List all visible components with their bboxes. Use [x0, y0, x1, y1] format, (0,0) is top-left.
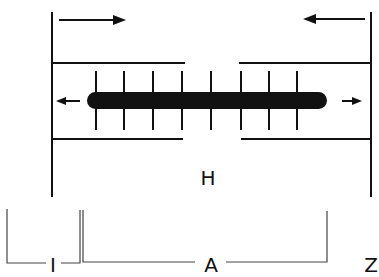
- arrow-left-small-icon: [56, 97, 80, 105]
- sarcomere-diagram: H I A Z: [0, 0, 379, 277]
- arrow-right-icon: [59, 15, 126, 25]
- label-i-band: I: [50, 253, 56, 277]
- arrow-left-icon: [303, 14, 365, 24]
- arrow-right-small-icon: [342, 97, 362, 105]
- label-h-zone: H: [200, 166, 215, 190]
- i-band-bracket: [7, 209, 80, 263]
- label-z-line: Z: [364, 253, 378, 277]
- label-a-band: A: [204, 253, 218, 277]
